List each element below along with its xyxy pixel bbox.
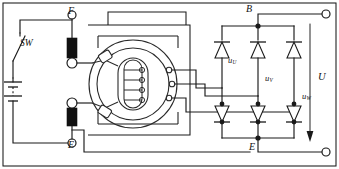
label-phase-w-subscript: W: [306, 95, 310, 101]
slip-ring-bottom: [67, 98, 77, 108]
wire-phase-v: [175, 84, 258, 96]
stator-tap-v: [169, 81, 175, 87]
node-phase-v-midpoint: [256, 102, 261, 107]
node-diode-u-negative: [220, 120, 225, 125]
diode-u-positive: [215, 42, 229, 58]
label-phase-v: uV: [265, 74, 272, 83]
label-phase-w: uW: [302, 92, 311, 101]
node-diode-w-negative: [292, 120, 297, 125]
wire-phase-u: [172, 70, 222, 88]
output-voltage-arrow-head: [307, 131, 314, 142]
diode-v-negative: [251, 106, 265, 122]
pole-shoe-bottom-left: [97, 104, 112, 118]
stator-tap-u: [166, 67, 172, 73]
diode-u-negative: [215, 106, 229, 122]
field-brush-bottom: [67, 108, 77, 126]
schematic-canvas: [0, 0, 339, 169]
housing-top-bridge: [108, 12, 186, 25]
output-terminal-negative[interactable]: [322, 148, 330, 156]
label-e-terminal-right: E: [249, 142, 255, 152]
wire-e-to-negative-bus: [72, 130, 250, 152]
label-b-terminal: B: [246, 4, 252, 14]
node-diode-v-negative: [256, 120, 261, 125]
diode-v-positive: [251, 42, 265, 58]
wire-switch-to-f-terminal: [20, 20, 72, 33]
label-output-voltage: U: [318, 72, 326, 83]
node-phase-w-midpoint: [292, 102, 297, 107]
wire-e-to-output-negative: [258, 138, 322, 152]
label-phase-u-subscript: U: [232, 59, 236, 65]
diode-w-negative: [287, 106, 301, 122]
node-phase-u-midpoint: [220, 102, 225, 107]
wire-b-to-output-positive: [258, 14, 322, 26]
label-e-terminal-left: E: [68, 140, 74, 150]
diode-w-positive: [287, 42, 301, 58]
output-terminal-positive[interactable]: [322, 10, 330, 18]
stator-tap-w: [166, 95, 172, 101]
field-brush-top: [67, 38, 77, 58]
label-switch: SW: [20, 39, 33, 49]
label-phase-v-subscript: V: [269, 77, 272, 83]
alternator-rectifier-diagram: F SW E B E U uU uV uW: [0, 0, 339, 169]
label-phase-u: uU: [228, 56, 236, 65]
wire-battery-to-e-terminal: [13, 101, 72, 143]
label-f-terminal: F: [68, 6, 74, 16]
slip-ring-top: [67, 58, 77, 68]
